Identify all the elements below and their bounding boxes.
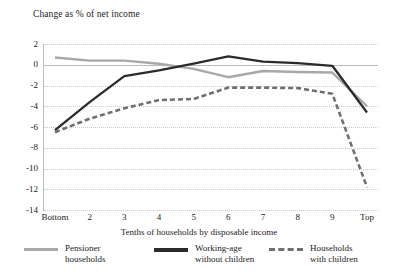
y-tick-label: -4	[14, 102, 38, 111]
y-tick-label: 0	[14, 60, 38, 69]
legend-item[interactable]: Households with children	[269, 243, 358, 265]
legend-item-label: Households with children	[310, 243, 358, 265]
y-tick-label: -10	[14, 164, 38, 173]
x-tick-label: 4	[157, 213, 162, 222]
line-solid-grey-icon	[24, 243, 58, 255]
x-axis-tick-labels: Bottom23456789Top	[44, 213, 378, 227]
x-tick-label: 6	[226, 213, 231, 222]
legend-item-label: Pensioner households	[65, 243, 106, 265]
x-tick-label: 5	[191, 213, 196, 222]
y-tick-label: -12	[14, 185, 38, 194]
series-line	[55, 88, 367, 188]
x-tick-label: 7	[261, 213, 266, 222]
x-tick-label: Top	[360, 213, 374, 222]
series-lines	[44, 44, 378, 210]
y-tick-label: -6	[14, 123, 38, 132]
plot-area	[44, 44, 378, 210]
gridline	[44, 210, 378, 211]
line-solid-black-icon	[154, 243, 188, 255]
y-tick-label: 2	[14, 40, 38, 49]
legend-item[interactable]: Pensioner households	[24, 243, 106, 265]
y-tick-label: -2	[14, 81, 38, 90]
line-dashed-grey-icon	[269, 243, 303, 255]
chart-legend: Pensioner householdsWorking-age without …	[24, 243, 384, 273]
y-tick-label: -8	[14, 143, 38, 152]
x-tick-label: Bottom	[41, 213, 68, 222]
legend-item[interactable]: Working-age without children	[154, 243, 254, 265]
chart-title: Change as % of net income	[33, 9, 140, 19]
x-axis-title: Tenths of households by disposable incom…	[0, 227, 398, 237]
x-tick-label: 2	[87, 213, 92, 222]
x-tick-label: 8	[295, 213, 300, 222]
legend-item-label: Working-age without children	[195, 243, 254, 265]
chart-figure: Change as % of net income 20-2-4-6-8-10-…	[0, 0, 398, 278]
x-tick-label: 9	[330, 213, 335, 222]
y-axis-tick-labels: 20-2-4-6-8-10-12-14	[10, 44, 38, 210]
x-tick-label: 3	[122, 213, 127, 222]
y-tick-label: -14	[14, 206, 38, 215]
